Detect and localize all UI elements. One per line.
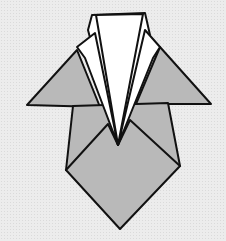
origami-diagram [0, 0, 226, 241]
